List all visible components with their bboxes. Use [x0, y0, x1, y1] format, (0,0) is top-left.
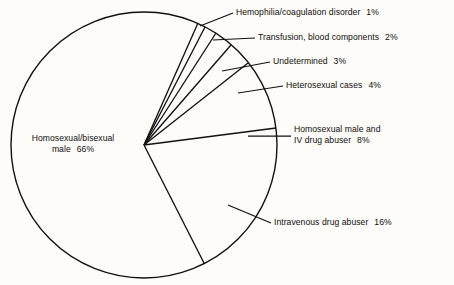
pie-slice-dividers [144, 23, 276, 263]
slice-label-homosexual-iv: Homosexual male and IV drug abuser8% [294, 124, 380, 146]
slice-label-homosexual-bisexual-text-line1: Homosexual/bisexual [32, 133, 115, 143]
slice-label-homosexual-bisexual: Homosexual/bisexual male66% [14, 133, 132, 155]
divider-heterosexual-homoiv [144, 63, 248, 145]
leader-line-heterosexual [238, 86, 283, 93]
slice-label-homosexual-iv-percent: 8% [357, 135, 370, 145]
slice-label-heterosexual-text: Heterosexual cases [286, 80, 362, 90]
slice-label-homosexual-iv-line2: IV drug abuser8% [294, 135, 380, 146]
pie-leader-lines [200, 13, 291, 223]
slice-label-homosexual-bisexual-line2: male66% [14, 144, 132, 155]
slice-label-intravenous: Intravenous drug abuser16% [274, 217, 392, 228]
slice-label-hemophilia-text: Hemophilia/coagulation disorder [236, 7, 360, 17]
slice-label-transfusion-text: Transfusion, blood components [258, 32, 379, 42]
slice-label-undetermined-text: Undetermined [273, 56, 328, 66]
slice-label-homosexual-bisexual-percent: 66% [77, 144, 94, 154]
slice-label-homosexual-iv-text-line2: IV drug abuser [294, 135, 351, 145]
leader-line-hemophilia [200, 13, 233, 26]
leader-line-undetermined [222, 62, 270, 71]
slice-label-undetermined: Undetermined3% [273, 56, 346, 67]
slice-label-transfusion: Transfusion, blood components2% [258, 32, 398, 43]
pie-chart-figure: Hemophilia/coagulation disorder1% Transf… [0, 0, 454, 285]
slice-label-intravenous-text: Intravenous drug abuser [274, 217, 368, 227]
slice-label-hemophilia-percent: 1% [366, 7, 379, 17]
leader-line-intravenous [228, 205, 271, 223]
divider-transfusion-undetermined [144, 33, 216, 145]
slice-label-hemophilia: Hemophilia/coagulation disorder1% [236, 7, 379, 18]
slice-label-heterosexual-percent: 4% [368, 80, 381, 90]
slice-label-heterosexual: Heterosexual cases4% [286, 80, 381, 91]
divider-ivdrug-homobi [144, 145, 204, 263]
slice-label-undetermined-percent: 3% [334, 56, 347, 66]
slice-label-homosexual-iv-text-line1: Homosexual male and [294, 124, 380, 134]
leader-line-transfusion [213, 38, 255, 40]
slice-label-transfusion-percent: 2% [385, 32, 398, 42]
slice-label-homosexual-bisexual-text-line2: male [52, 144, 71, 154]
slice-label-intravenous-percent: 16% [374, 217, 391, 227]
divider-hemophilia-start [144, 23, 198, 145]
